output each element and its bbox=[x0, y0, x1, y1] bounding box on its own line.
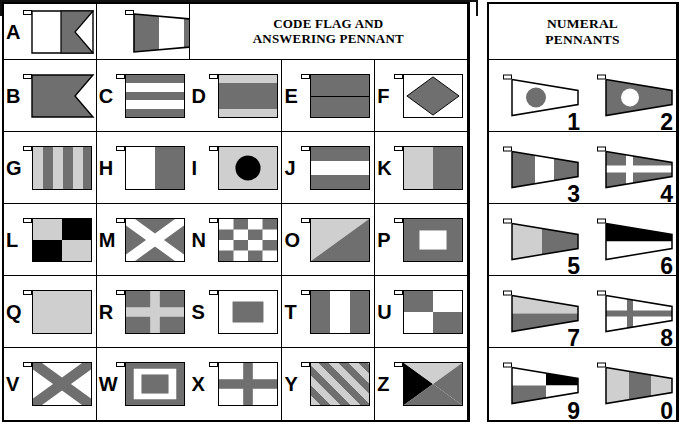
flag-A bbox=[23, 10, 94, 54]
flag-J bbox=[301, 146, 370, 190]
mast-cleat-icon bbox=[394, 218, 403, 223]
flag-F bbox=[394, 74, 463, 118]
flag-letter-label: I bbox=[192, 158, 198, 178]
flag-H bbox=[116, 146, 185, 190]
flag-shape-P bbox=[403, 218, 463, 262]
mast-cleat-icon bbox=[209, 290, 218, 295]
flag-cell-F: F bbox=[375, 60, 468, 132]
numeral-header-line2: PENNANTS bbox=[545, 32, 619, 47]
flag-cell-E: E bbox=[282, 60, 375, 132]
pennant-numeral-label: 4 bbox=[660, 183, 673, 204]
flag-letter-label: U bbox=[377, 302, 391, 322]
numeral-pennant-grid: NUMERAL PENNANTS 1 bbox=[489, 4, 677, 420]
mast-cleat-icon bbox=[301, 146, 310, 151]
flag-Z bbox=[394, 362, 463, 406]
mast-cleat-icon bbox=[23, 10, 32, 15]
pennant-cell-9: 9 bbox=[489, 348, 583, 420]
pennant-numeral-label: 6 bbox=[660, 255, 673, 276]
flag-Y bbox=[301, 362, 370, 406]
flag-letter-label: P bbox=[377, 230, 390, 250]
mast-cleat-icon bbox=[301, 362, 310, 367]
flag-letter-label: L bbox=[6, 230, 18, 250]
mast-cleat-icon bbox=[23, 74, 32, 79]
mast-cleat-icon bbox=[209, 146, 218, 151]
flag-letter-label: G bbox=[6, 158, 22, 178]
flag-cell-J: J bbox=[282, 132, 375, 204]
flag-letter-label: E bbox=[284, 86, 297, 106]
flag-cell-X: X bbox=[190, 348, 283, 420]
flag-V bbox=[23, 362, 92, 406]
flag-letter-label: V bbox=[6, 374, 19, 394]
pennant-cell-2: 2 bbox=[583, 60, 677, 132]
flag-cell-Z: Z bbox=[375, 348, 468, 420]
mast-cleat-icon bbox=[116, 290, 125, 295]
mast-cleat-icon bbox=[394, 146, 403, 151]
flag-cell-H: H bbox=[97, 132, 190, 204]
flag-cell-W: W bbox=[97, 348, 190, 420]
mast-cleat-icon bbox=[125, 10, 134, 15]
flag-shape-E bbox=[310, 74, 370, 118]
mast-cleat-icon bbox=[597, 218, 606, 223]
pennant-cell-0: 0 bbox=[583, 348, 677, 420]
flag-cell-D: D bbox=[190, 60, 283, 132]
mast-cleat-icon bbox=[503, 363, 512, 368]
mast-cleat-icon bbox=[23, 218, 32, 223]
pennant-numeral-label: 9 bbox=[567, 400, 580, 420]
pennant-cell-6: 6 bbox=[583, 204, 677, 276]
mast-cleat-icon bbox=[301, 290, 310, 295]
flag-Q bbox=[23, 290, 92, 334]
flag-letter-label: Q bbox=[6, 302, 22, 322]
flag-L bbox=[23, 218, 92, 262]
alphabet-flag-grid: A bbox=[4, 4, 468, 420]
pennant-cell-3: 3 bbox=[489, 132, 583, 204]
flag-shape-Q bbox=[32, 290, 92, 334]
mast-cleat-icon bbox=[23, 362, 32, 367]
mast-cleat-icon bbox=[394, 362, 403, 367]
flag-cell-K: K bbox=[375, 132, 468, 204]
flag-letter-label: T bbox=[284, 302, 296, 322]
mast-cleat-icon bbox=[116, 218, 125, 223]
flag-letter-label: X bbox=[192, 374, 205, 394]
flag-shape-U bbox=[403, 290, 463, 334]
flag-cell-M: M bbox=[97, 204, 190, 276]
mast-cleat-icon bbox=[116, 146, 125, 151]
mast-cleat-icon bbox=[209, 218, 218, 223]
flag-cell-S: S bbox=[190, 276, 283, 348]
flag-S bbox=[209, 290, 278, 334]
flag-shape-T bbox=[310, 290, 370, 334]
flag-shape-R bbox=[125, 290, 185, 334]
flag-O bbox=[301, 218, 370, 262]
flag-cell-L: L bbox=[4, 204, 97, 276]
flag-letter-label: S bbox=[192, 302, 205, 322]
flag-cell-N: N bbox=[190, 204, 283, 276]
flag-E bbox=[301, 74, 370, 118]
flag-shape-Y bbox=[310, 362, 370, 406]
flag-letter-label: D bbox=[192, 86, 206, 106]
flag-R bbox=[116, 290, 185, 334]
flag-shape-O bbox=[310, 218, 370, 262]
mast-cleat-icon bbox=[394, 290, 403, 295]
flag-shape-D bbox=[218, 74, 278, 118]
flag-X bbox=[209, 362, 278, 406]
mast-cleat-icon bbox=[503, 218, 512, 223]
flag-letter-label: Z bbox=[377, 374, 389, 394]
flag-letter-label: M bbox=[99, 230, 116, 250]
mast-cleat-icon bbox=[301, 218, 310, 223]
flag-N bbox=[209, 218, 278, 262]
flag-shape-H bbox=[125, 146, 185, 190]
flag-cell-G: G bbox=[4, 132, 97, 204]
flag-shape-S bbox=[218, 290, 278, 334]
mast-cleat-icon bbox=[23, 146, 32, 151]
mast-cleat-icon bbox=[597, 74, 606, 79]
flag-letter-label: W bbox=[99, 374, 118, 394]
pennant-numeral-label: 3 bbox=[567, 183, 580, 204]
flag-cell-O: O bbox=[282, 204, 375, 276]
mast-cleat-icon bbox=[597, 146, 606, 151]
code-flag-header-line2: ANSWERING PENNANT bbox=[253, 32, 404, 47]
pennant-numeral-label: 8 bbox=[660, 327, 673, 348]
flag-P bbox=[394, 218, 463, 262]
flag-U bbox=[394, 290, 463, 334]
numeral-header-line1: NUMERAL bbox=[545, 16, 619, 31]
mast-cleat-icon bbox=[209, 362, 218, 367]
flag-shape-J bbox=[310, 146, 370, 190]
